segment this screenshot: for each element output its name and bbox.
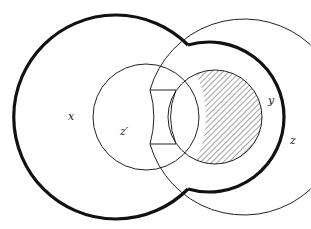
label-x: x — [68, 110, 75, 123]
label-z: z — [289, 134, 296, 147]
circle-x-outline — [14, 15, 188, 219]
label-y: y — [267, 94, 275, 107]
label-z-prime: z′ — [119, 125, 129, 138]
venn-diagram: x z′ y z — [0, 0, 311, 229]
